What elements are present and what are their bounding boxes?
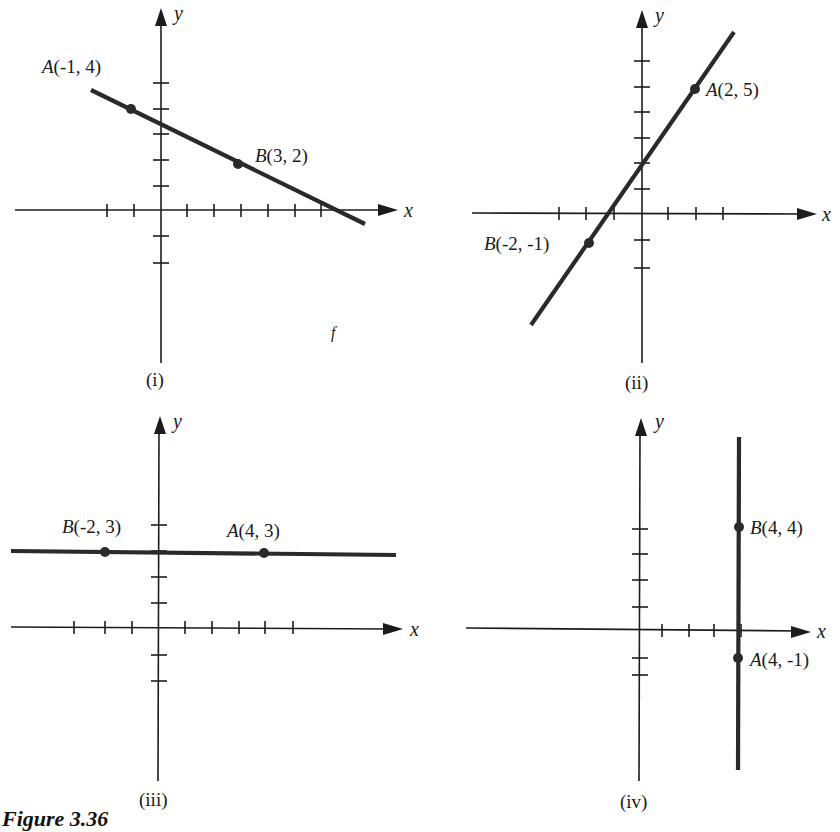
panel-iv: x y B(4, 4) A(4, -1) (iv) [466, 410, 826, 813]
y-axis-arrow-icon [635, 418, 647, 436]
y-axis-label: y [171, 410, 182, 433]
point-B [584, 238, 594, 248]
line-through-A-B [531, 32, 734, 325]
point-B-label: B(-2, 3) [62, 516, 121, 538]
y-axis-label: y [653, 4, 664, 27]
x-axis-label: x [821, 203, 831, 225]
x-axis-label: x [403, 199, 413, 221]
point-B-label: B(4, 4) [750, 517, 803, 539]
panel-label: (iv) [620, 791, 647, 813]
y-axis-arrow-icon [636, 10, 648, 28]
point-A-label: A(-1, 4) [40, 56, 101, 78]
panel-label: (ii) [625, 372, 648, 394]
point-B [100, 547, 110, 557]
point-A-label: A(2, 5) [704, 79, 759, 101]
y-axis [632, 418, 648, 781]
print-speck: f [331, 324, 338, 342]
x-axis-arrow-icon [383, 623, 403, 635]
point-A [259, 548, 269, 558]
panel-iii: x y B(-2, 3) A(4, 3) (iii) [11, 410, 419, 811]
point-B-label: B(3, 2) [255, 145, 308, 167]
point-A [126, 104, 136, 114]
x-axis-label: x [816, 620, 826, 642]
panel-ii: x y A(2, 5) B(-2, -1) (ii) [472, 4, 831, 394]
point-A-label: A(4, -1) [748, 649, 809, 671]
point-B-label: B(-2, -1) [484, 233, 549, 255]
y-axis-arrow-icon [155, 8, 167, 26]
figure-caption: Figure 3.36 [2, 806, 108, 832]
panel-label: (i) [146, 369, 164, 391]
line-through-A-B [738, 437, 739, 770]
x-axis [466, 624, 811, 638]
x-axis [472, 207, 817, 220]
y-axis-label: y [653, 410, 664, 433]
panel-i: x y A(-1, 4) B(3, 2) (i) f [15, 2, 413, 391]
point-B [233, 159, 243, 169]
panel-label: (iii) [139, 789, 168, 811]
x-axis-label: x [409, 618, 419, 640]
point-A-label: A(4, 3) [225, 520, 280, 542]
y-axis-label: y [172, 2, 183, 25]
x-axis-arrow-icon [378, 204, 398, 216]
point-B [734, 522, 744, 532]
y-axis [153, 8, 169, 363]
y-axis-arrow-icon [154, 416, 166, 434]
point-A [733, 653, 743, 663]
y-axis [151, 416, 167, 781]
point-A [690, 84, 700, 94]
line-through-A-B [11, 551, 396, 555]
x-axis-arrow-icon [791, 626, 811, 638]
y-axis [634, 10, 650, 363]
x-axis [11, 621, 403, 635]
x-axis-arrow-icon [797, 208, 817, 220]
